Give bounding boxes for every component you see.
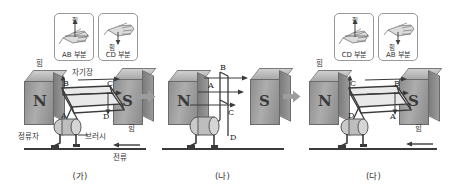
brush-leader-line [78,133,88,137]
figure-canvas: 힘 AB 부분 힘 CD 부분 힘 N [0,0,452,185]
current-arrow-icon [110,142,142,148]
coil-diagram [0,0,160,185]
circuit-wire [309,148,437,150]
circuit-wire [24,148,146,150]
coil-point-d: D [103,112,109,121]
coil-point-d: D [230,133,236,142]
coil-point-b: B [63,79,69,88]
commutator-label: 정류자 [18,130,39,141]
coil-point-c: C [228,108,234,117]
circuit-wire [162,148,284,150]
coil-point-b: B [220,63,226,72]
panel-ga: 힘 AB 부분 힘 CD 부분 힘 N [0,0,160,185]
brush-label: 브러시 [85,130,106,141]
current-label: 전류 [113,151,127,162]
coil-diagram [150,0,295,185]
coil-point-c: C [350,79,356,88]
panel-caption-ga: (가) [0,169,160,181]
coil-point-a: A [390,112,396,121]
coil-point-a: A [208,81,214,90]
panel-caption-na: (나) [150,169,295,181]
force-label-right: 힘 [128,122,135,133]
panel-na: N S [150,0,295,185]
current-arrow-icon [403,141,435,147]
coil-point-b: B [394,79,400,88]
coil-point-d: D [348,111,354,120]
panel-caption-da: (다) [295,169,452,181]
panel-da: 힘 CD 부분 힘 AB 부분 힘 N S [295,0,452,185]
coil-point-c: C [107,79,113,88]
coil-point-a: A [61,111,67,120]
coil-diagram [295,0,452,185]
force-label-right: 힘 [415,122,422,133]
